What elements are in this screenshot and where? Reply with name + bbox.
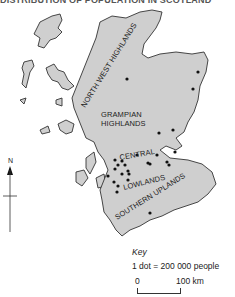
map-key: Key 1 dot = 200 000 people 0 100 km bbox=[132, 247, 219, 297]
island-mull bbox=[58, 120, 74, 134]
island-jura bbox=[86, 152, 96, 174]
island-small-3 bbox=[40, 126, 50, 134]
island-islay bbox=[76, 170, 88, 186]
scale-bar: 0 100 km bbox=[132, 276, 219, 297]
island-lewis bbox=[34, 14, 62, 48]
key-legend: 1 dot = 200 000 people bbox=[132, 261, 219, 271]
north-arrow-icon: N bbox=[3, 157, 17, 232]
north-label: N bbox=[8, 157, 13, 164]
label-grampian-1: GRAMPIAN bbox=[101, 110, 142, 119]
island-skye bbox=[46, 64, 74, 90]
island-uist bbox=[22, 60, 34, 88]
scale-start: 0 bbox=[135, 276, 140, 286]
label-grampian-2: HIGHLANDS bbox=[101, 119, 146, 128]
island-small-1 bbox=[20, 98, 26, 104]
scale-end: 100 km bbox=[176, 276, 204, 286]
key-title: Key bbox=[132, 247, 219, 257]
island-small-2 bbox=[56, 98, 62, 106]
scale-line bbox=[137, 288, 181, 294]
